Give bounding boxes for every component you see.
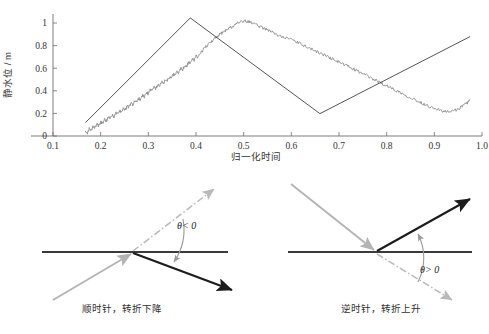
y-tick-label: 0.4 bbox=[35, 86, 47, 96]
x-tick-label: 0.6 bbox=[285, 141, 297, 151]
diagrams-canvas: θ< 0 顺时针，转折下降 θ> 0 逆时针，转折上升 bbox=[0, 172, 489, 334]
ghost-ray-right-icon bbox=[377, 254, 452, 300]
x-tick-label: 0.4 bbox=[190, 141, 202, 151]
chart-canvas: 0.10.20.30.40.50.60.70.80.91.0 00.20.40.… bbox=[0, 0, 489, 172]
ghost-ray-left-icon bbox=[133, 189, 214, 251]
x-tick-label: 0.8 bbox=[381, 141, 393, 151]
theta-label-right: θ> 0 bbox=[420, 264, 439, 275]
x-tick-label: 0.9 bbox=[428, 141, 440, 151]
x-tick-label: 0.1 bbox=[47, 141, 59, 151]
turn-direction-diagrams: θ< 0 顺时针，转折下降 θ> 0 逆时针，转折上升 bbox=[0, 172, 489, 334]
water-level-chart: 0.10.20.30.40.50.60.70.80.91.0 00.20.40.… bbox=[0, 0, 489, 172]
y-tick-label: 1 bbox=[42, 18, 47, 28]
y-tick-label: 0 bbox=[42, 131, 47, 141]
outgoing-ray-right-icon bbox=[377, 199, 470, 251]
incoming-ray-right-icon bbox=[291, 184, 374, 250]
chart-axes bbox=[31, 14, 482, 136]
caption-clockwise: 顺时针，转折下降 bbox=[82, 303, 162, 314]
y-axis-ticks: 00.20.40.60.81 bbox=[35, 18, 57, 141]
x-tick-label: 0.3 bbox=[142, 141, 154, 151]
raw-signal-path bbox=[85, 20, 469, 135]
x-axis-title: 归一化时间 bbox=[231, 151, 281, 162]
y-tick-label: 0.8 bbox=[35, 41, 47, 51]
diagram-counterclockwise: θ> 0 逆时针，转折上升 bbox=[288, 184, 472, 314]
diagram-clockwise: θ< 0 顺时针，转折下降 bbox=[42, 189, 232, 314]
x-tick-label: 0.7 bbox=[333, 141, 345, 151]
fit-line-path bbox=[85, 18, 470, 123]
y-tick-label: 0.6 bbox=[35, 64, 47, 74]
x-tick-label: 0.2 bbox=[95, 141, 107, 151]
x-tick-label: 0.5 bbox=[238, 141, 250, 151]
outgoing-ray-left-icon bbox=[133, 253, 232, 290]
x-tick-label: 1.0 bbox=[476, 141, 488, 151]
incoming-ray-left-icon bbox=[53, 254, 131, 300]
x-axis-ticks: 0.10.20.30.40.50.60.70.80.91.0 bbox=[47, 132, 488, 151]
figure-root: 0.10.20.30.40.50.60.70.80.91.0 00.20.40.… bbox=[0, 0, 489, 334]
y-tick-label: 0.2 bbox=[35, 109, 47, 119]
theta-label-left: θ< 0 bbox=[177, 220, 196, 231]
y-axis-title: 静水位 / m bbox=[2, 52, 13, 98]
caption-counterclockwise: 逆时针，转折上升 bbox=[341, 303, 421, 314]
